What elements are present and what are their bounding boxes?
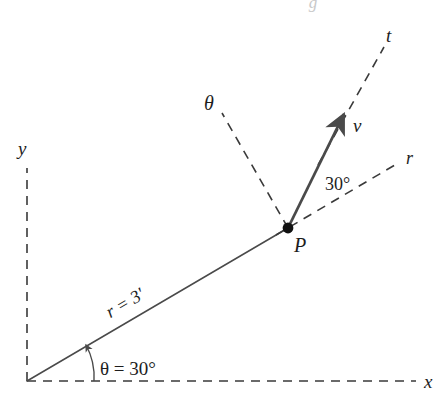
polar-angle-arc [86,345,94,381]
radial-line-OP [27,228,288,381]
r-axis-line [276,162,400,235]
radius-annotation: r = 3' [102,283,148,322]
theta-axis-line [222,113,288,228]
theta-axis-label: θ [204,92,214,114]
polar-angle-label: θ = 30° [100,358,156,379]
radius-annotation-group: r = 3' [102,283,148,322]
point-P-label: P [293,234,306,256]
t-axis-label: t [386,25,392,46]
velocity-vector-arrow [288,114,344,228]
x-axis-label: x [423,371,433,392]
caption-fragment-glyph: g [309,0,318,12]
velocity-angle-label: 30° [325,174,350,194]
polar-kinematics-diagram: g y x r θ t v P 30° r = [0,0,444,408]
r-axis-label: r [406,148,414,168]
velocity-vector-label: v [353,115,362,136]
point-P-marker [283,223,294,234]
y-axis-label: y [16,138,27,159]
figure-container: g y x r θ t v P 30° r = [0,0,444,408]
